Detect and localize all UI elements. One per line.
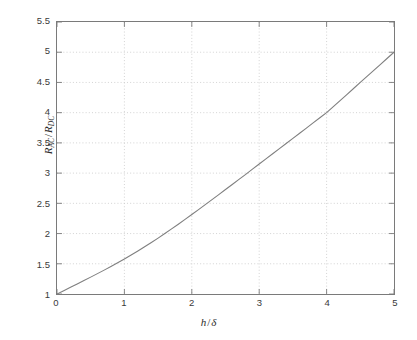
y-axis-label-denominator-base: R [42, 126, 54, 133]
x-axis-tick-label: 1 [109, 298, 139, 308]
x-axis-tick-label: 0 [41, 298, 71, 308]
x-axis-tick-label: 2 [177, 298, 207, 308]
y-axis-tick-label: 5 [0, 46, 50, 56]
y-axis-label: RAC/RDC [42, 80, 56, 190]
y-axis-label-numerator-base: R [42, 148, 54, 155]
y-axis-tick-label: 5.5 [0, 16, 50, 26]
x-axis-tick-label: 5 [380, 298, 410, 308]
plot-area [56, 21, 395, 295]
y-axis-tick-label: 2 [0, 229, 50, 239]
y-axis-label-numerator-subscript: AC [47, 138, 56, 148]
x-axis-label-denominator: δ [211, 316, 216, 328]
y-axis-label-denominator-subscript: DC [47, 116, 56, 126]
x-axis-tick-label: 4 [312, 298, 342, 308]
y-axis-tick-label: 2.5 [0, 199, 50, 209]
data-series-curve [57, 22, 394, 294]
chart-figure: 11.522.533.544.555.5 012345 RAC/RDC h/δ [0, 0, 417, 340]
x-axis-label: h/δ [0, 316, 417, 328]
y-axis-label-slash: / [42, 133, 54, 138]
y-axis-tick-label: 1.5 [0, 260, 50, 270]
x-axis-tick-label: 3 [244, 298, 274, 308]
